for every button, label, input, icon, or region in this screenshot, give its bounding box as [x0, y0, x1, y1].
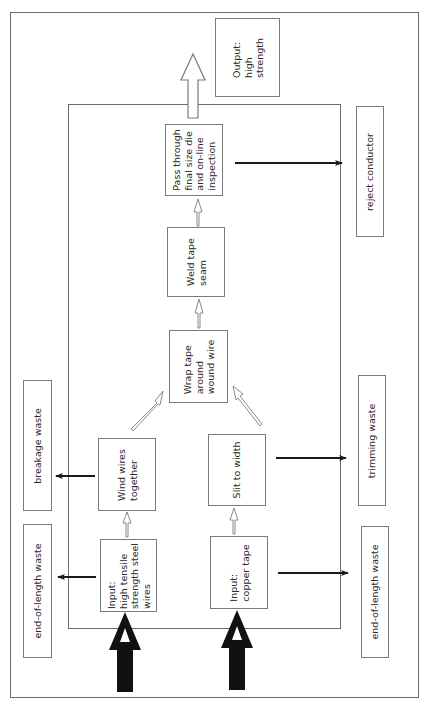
- waste-label: trimming waste: [366, 403, 378, 478]
- step-slit-to-width: Slit to width: [208, 434, 266, 506]
- step-label: Input: high tensile strength steel wires: [106, 542, 152, 608]
- waste-breakage: breakage waste: [23, 380, 52, 511]
- step-wind-wires: Wind wires together: [98, 438, 156, 511]
- step-label: Wind wires together: [116, 449, 139, 501]
- step-pass-through-die: Pass through final size die and on-line …: [165, 124, 223, 196]
- waste-trimming: trimming waste: [358, 375, 386, 506]
- arrow-slit-to-wrap: [233, 386, 262, 426]
- input-arrow-copper: [221, 610, 253, 690]
- step-wrap-tape: Wrap tape around wound wire: [169, 330, 228, 403]
- step-label: Slit to width: [231, 442, 243, 499]
- input-arrow-steel: [109, 612, 141, 692]
- output-box: Output: high strength: [215, 18, 280, 97]
- step-weld-tape-seam: Weld tape seam: [167, 227, 225, 297]
- waste-end-of-length-right: end-of-length waste: [361, 526, 389, 658]
- waste-end-of-length-left: end-of-length waste: [23, 524, 52, 658]
- arrow-wrap-to-weld: [195, 299, 203, 328]
- arrow-steel-to-wind: [123, 512, 131, 537]
- arrow-wind-to-wrap: [131, 391, 163, 431]
- waste-label: end-of-length waste: [369, 545, 381, 640]
- step-label: Wrap tape around wound wire: [181, 339, 216, 394]
- waste-label: breakage waste: [32, 408, 44, 484]
- arrow-copper-to-slit: [230, 508, 238, 534]
- waste-label: reject conductor: [364, 133, 376, 211]
- waste-label: end-of-length waste: [32, 544, 44, 639]
- step-label: Pass through final size die and on-line …: [171, 129, 217, 190]
- arrow-pass-to-output: [181, 54, 205, 118]
- arrow-weld-to-pass: [194, 199, 202, 226]
- step-label: Weld tape seam: [185, 238, 208, 286]
- step-input-steel-wires: Input: high tensile strength steel wires: [100, 539, 157, 612]
- step-input-copper-tape: Input: copper tape: [210, 536, 268, 609]
- waste-reject-conductor: reject conductor: [356, 106, 384, 237]
- step-label: Input: copper tape: [228, 544, 251, 601]
- output-label: Output: high strength: [230, 37, 265, 77]
